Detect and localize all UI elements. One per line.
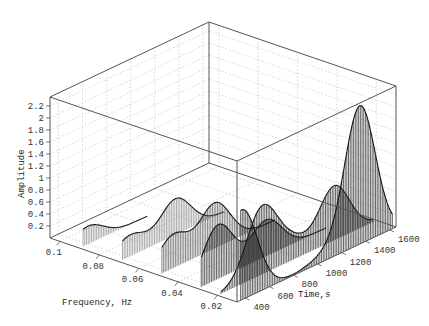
y-axis-label: Time,s bbox=[298, 290, 330, 300]
waterfall-3d-chart: 0.20.40.60.811.21.41.61.822.20.10.080.06… bbox=[0, 0, 429, 326]
svg-text:1.4: 1.4 bbox=[28, 150, 44, 160]
svg-text:2.2: 2.2 bbox=[28, 102, 44, 112]
svg-text:1.8: 1.8 bbox=[28, 126, 44, 136]
svg-text:1600: 1600 bbox=[398, 235, 420, 245]
svg-text:0.06: 0.06 bbox=[122, 275, 144, 285]
svg-text:0.1: 0.1 bbox=[46, 248, 62, 258]
svg-text:1.6: 1.6 bbox=[28, 138, 44, 148]
svg-text:0.4: 0.4 bbox=[28, 210, 44, 220]
svg-text:1.2: 1.2 bbox=[28, 162, 44, 172]
svg-text:0.04: 0.04 bbox=[161, 289, 183, 299]
axis-ticks: 0.20.40.60.811.21.41.61.822.20.10.080.06… bbox=[28, 102, 420, 313]
svg-text:0.8: 0.8 bbox=[28, 186, 44, 196]
svg-text:0.08: 0.08 bbox=[82, 262, 104, 272]
svg-text:0.02: 0.02 bbox=[201, 302, 223, 312]
svg-text:400: 400 bbox=[253, 303, 269, 313]
svg-text:1200: 1200 bbox=[350, 258, 372, 268]
svg-text:1000: 1000 bbox=[326, 269, 348, 279]
svg-text:600: 600 bbox=[278, 292, 294, 302]
svg-text:1400: 1400 bbox=[374, 246, 396, 256]
z-axis-label: Amplitude bbox=[17, 149, 27, 198]
svg-text:800: 800 bbox=[302, 280, 318, 290]
svg-text:0.2: 0.2 bbox=[28, 222, 44, 232]
svg-text:1: 1 bbox=[39, 174, 44, 184]
x-axis-label: Frequency, Hz bbox=[62, 298, 132, 308]
svg-text:2: 2 bbox=[39, 114, 44, 124]
svg-text:0.6: 0.6 bbox=[28, 198, 44, 208]
